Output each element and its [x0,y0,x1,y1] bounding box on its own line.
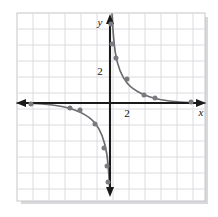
y-axis-label: y [97,16,103,28]
graph-figure: 2 2 y x [0,0,218,217]
plotted-point [153,96,158,101]
plotted-point [110,42,115,47]
coordinate-plane: 2 2 y x [0,0,218,217]
plotted-point [29,102,34,107]
plotted-point [109,22,114,27]
plotted-point [106,180,111,185]
x-axis-tick-label-2: 2 [124,107,130,119]
plotted-point [93,122,98,127]
plotted-point [78,108,83,113]
plotted-point [142,93,147,98]
x-axis-label: x [198,106,204,118]
plotted-point [102,146,107,151]
plotted-point [68,106,73,111]
plotted-point [125,77,130,82]
plotted-point [114,56,119,61]
plotted-point [105,164,110,169]
plotted-point [189,100,194,105]
y-axis-tick-label-2: 2 [97,65,103,77]
